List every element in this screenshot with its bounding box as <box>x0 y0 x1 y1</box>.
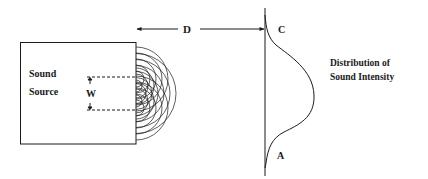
sound-source-label-line1: Sound <box>29 68 57 79</box>
distribution-label-line1: Distribution of <box>330 58 391 68</box>
point-c-label: C <box>278 24 285 35</box>
intensity-distribution-curve <box>265 15 314 168</box>
sound-diffraction-diagram: Sound Source W <box>0 0 428 179</box>
distance-label: D <box>183 23 191 35</box>
distribution-label-line2: Sound Intensity <box>330 72 394 82</box>
sound-source-label-line2: Source <box>29 86 59 97</box>
point-a-label: A <box>277 150 285 161</box>
width-label: W <box>86 88 96 99</box>
